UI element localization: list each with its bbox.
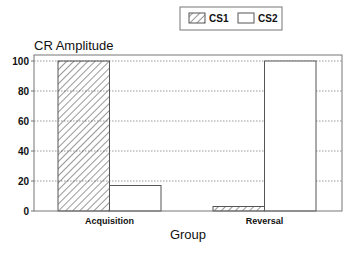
y-axis-label: CR Amplitude: [34, 38, 113, 53]
x-axis-categories: AcquisitionReversal: [85, 216, 283, 226]
y-tick-label: 60: [18, 116, 30, 127]
y-tick-label: 100: [12, 56, 29, 67]
y-tick-label: 0: [23, 206, 29, 217]
x-category-label: Reversal: [246, 216, 284, 226]
x-axis-label: Group: [170, 227, 206, 242]
x-category-label: Acquisition: [85, 216, 134, 226]
bar-cs2-acquisition: [110, 186, 162, 212]
legend-label-cs1: CS1: [209, 13, 229, 24]
legend: CS1CS2: [180, 7, 282, 30]
y-tick-label: 20: [18, 176, 30, 187]
bar-cs1-reversal: [213, 207, 265, 212]
bar-cs1-acquisition: [58, 61, 110, 211]
y-tick-label: 80: [18, 86, 30, 97]
legend-swatch-cs2: [238, 13, 254, 23]
legend-label-cs2: CS2: [258, 13, 278, 24]
legend-swatch-cs1: [189, 13, 205, 23]
bars: [58, 61, 316, 211]
y-tick-label: 40: [18, 146, 30, 157]
bar-cs2-reversal: [265, 61, 317, 211]
bar-chart: CS1CS2 CR Amplitude 020406080100 Acquisi…: [0, 0, 357, 254]
y-axis-ticks: 020406080100: [12, 56, 34, 217]
